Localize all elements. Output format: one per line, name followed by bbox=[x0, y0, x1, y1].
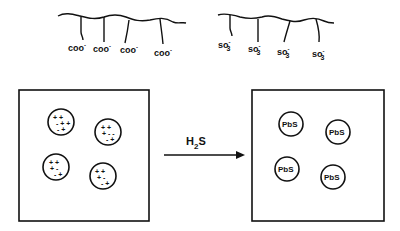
pbs-particle: PbS bbox=[326, 120, 350, 144]
svg-text:PbS: PbS bbox=[278, 165, 294, 174]
svg-text:so-3: so-3 bbox=[218, 39, 231, 52]
left-box bbox=[19, 90, 149, 221]
sulfonate-labels: so-3 so-3 so-3 so-3 bbox=[218, 39, 325, 61]
svg-text:coo-: coo- bbox=[120, 44, 138, 55]
svg-text:PbS: PbS bbox=[329, 128, 345, 137]
diagram-canvas: coo- coo- coo- coo- so-3 so-3 so-3 so-3 … bbox=[0, 0, 400, 231]
svg-text:coo-: coo- bbox=[93, 43, 111, 54]
pbs-particle: PbS bbox=[279, 112, 303, 136]
right-box bbox=[252, 90, 384, 221]
svg-text:PbS: PbS bbox=[324, 173, 340, 182]
svg-text:so-3: so-3 bbox=[277, 46, 290, 59]
sulfonate-polymer bbox=[218, 14, 334, 42]
charged-particles: + + - + + - + + + + - - - + + + + - - + … bbox=[43, 109, 121, 189]
reaction-arrow bbox=[164, 151, 245, 159]
carboxylate-labels: coo- coo- coo- coo- bbox=[68, 42, 172, 58]
pbs-particles: PbS PbS PbS PbS bbox=[275, 112, 350, 189]
svg-text:PbS: PbS bbox=[282, 120, 298, 129]
svg-text:coo-: coo- bbox=[154, 47, 172, 58]
svg-text:coo-: coo- bbox=[68, 42, 86, 53]
svg-text:so-3: so-3 bbox=[248, 43, 261, 56]
svg-text:- +: - + bbox=[57, 126, 65, 133]
pbs-particle: PbS bbox=[275, 157, 299, 181]
reagent-label: H2S bbox=[186, 135, 206, 151]
pbs-particle: PbS bbox=[321, 165, 345, 189]
svg-text:- +: - + bbox=[101, 180, 109, 187]
svg-text:- +: - + bbox=[106, 136, 114, 143]
carboxylate-polymer bbox=[58, 14, 186, 44]
svg-text:- +: - + bbox=[54, 171, 62, 178]
charged-particle: + + + - - + bbox=[43, 154, 69, 180]
svg-text:so-3: so-3 bbox=[312, 48, 325, 61]
charged-particle: + + + - - - + bbox=[95, 119, 121, 145]
charged-particle: + + - + + - + bbox=[48, 109, 74, 135]
charged-particle: + + + - - + bbox=[90, 163, 116, 189]
